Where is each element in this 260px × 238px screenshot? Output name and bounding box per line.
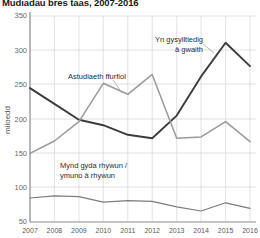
leader-work	[203, 44, 214, 53]
leader-study	[113, 80, 122, 93]
y-tick-350: 350	[14, 11, 27, 20]
x-tick-2007: 2007	[22, 227, 38, 234]
y-tick-250: 250	[14, 80, 27, 89]
annot-accompany-line2: ymuno â rhywun	[60, 171, 115, 180]
vertical-gridlines	[54, 16, 250, 221]
annot-accompany-line1: Mynd gyda rhywun /	[60, 161, 128, 170]
y-tick-100: 100	[14, 183, 27, 192]
annotation-study: Astudiaeth ffurfiol	[68, 72, 126, 81]
annot-study-line1: Astudiaeth ffurfiol	[68, 72, 126, 81]
annotation-work: Yn gysylltiedig â gwaith	[155, 35, 203, 54]
x-tick-2012: 2012	[144, 227, 160, 234]
annotation-accompany: Mynd gyda rhywun / ymuno â rhywun	[60, 161, 128, 180]
series-line-1	[30, 74, 250, 153]
x-tick-2015: 2015	[218, 227, 234, 234]
x-tick-2016: 2016	[242, 227, 258, 234]
y-axis-title: miloedd	[3, 106, 12, 134]
x-tick-2010: 2010	[96, 227, 112, 234]
y-tick-150: 150	[14, 149, 27, 158]
y-tick-labels: 350 300 250 200 150 100 50	[14, 11, 27, 226]
y-tick-50: 50	[19, 217, 27, 226]
chart-container: Mudiadau bres taas, 2007-2016	[0, 0, 260, 238]
annot-work-line1: Yn gysylltiedig	[155, 35, 203, 44]
x-tick-2008: 2008	[47, 227, 63, 234]
x-tick-labels: 2007 2008 2009 2010 2011 2012 2013 2014 …	[22, 227, 258, 234]
y-tick-300: 300	[14, 46, 27, 55]
series-line-0	[30, 43, 250, 138]
annot-work-line2: â gwaith	[175, 45, 203, 54]
series-layer	[30, 43, 250, 211]
x-tick-2013: 2013	[169, 227, 185, 234]
line-chart-plot: 350 300 250 200 150 100 50 miloedd 2007 …	[0, 0, 260, 238]
x-tick-2011: 2011	[120, 227, 135, 234]
x-tick-2014: 2014	[193, 227, 209, 234]
x-tick-2009: 2009	[71, 227, 87, 234]
y-tick-200: 200	[14, 115, 27, 124]
series-line-2	[30, 196, 250, 211]
